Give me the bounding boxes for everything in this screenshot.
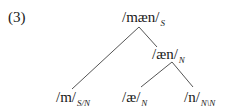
leaf-m: /m/S/N [56, 90, 90, 107]
branch-aen-to-ae [141, 62, 172, 87]
leaf-n: /n/N\N [184, 90, 215, 107]
branch-root-to-m [72, 27, 139, 89]
example-number: (3) [8, 10, 26, 25]
leaf-m-form: /m/ [56, 89, 76, 105]
branch-aen-to-n [172, 62, 193, 87]
root-form: /mæn/ [122, 9, 160, 25]
root-category: S [161, 18, 166, 28]
leaf-m-category: S/N [77, 98, 90, 108]
leaf-n-form: /n/ [184, 89, 200, 105]
aen-form: /æn/ [152, 46, 178, 62]
branch-root-to-aen [139, 27, 157, 47]
aen-node: /æn/N [152, 47, 185, 64]
root-node: /mæn/S [122, 10, 165, 27]
leaf-ae-form: /æ/ [122, 89, 140, 105]
leaf-ae-category: N [141, 98, 147, 108]
leaf-ae: /æ/N [122, 90, 147, 107]
leaf-n-category: N\N [201, 98, 216, 108]
aen-category: N [179, 55, 185, 65]
